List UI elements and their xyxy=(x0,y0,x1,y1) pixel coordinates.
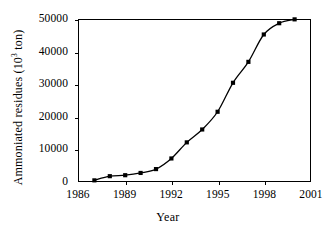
data-point-marker xyxy=(92,178,96,182)
x-axis-tick-label: 1989 xyxy=(113,188,136,201)
y-axis-tick-label: 0 xyxy=(62,176,68,188)
y-axis-tick-label: 20000 xyxy=(39,111,68,123)
data-point-marker xyxy=(108,174,112,178)
y-axis-tick-label: 50000 xyxy=(39,13,68,25)
data-point-marker xyxy=(123,173,127,177)
x-axis-tick-mark xyxy=(265,181,266,185)
y-axis-tick-mark xyxy=(75,150,79,151)
y-axis-tick-mark xyxy=(75,20,79,21)
data-point-marker xyxy=(169,156,173,160)
x-axis-tick-label: 1995 xyxy=(206,188,229,201)
data-series-line xyxy=(79,20,310,181)
x-axis-tick-label: 2001 xyxy=(299,188,322,201)
data-point-marker xyxy=(185,140,189,144)
x-axis-tick-mark xyxy=(126,181,127,185)
x-axis-title: Year xyxy=(0,210,336,225)
y-axis-unit-exponent: 3 xyxy=(10,53,19,57)
data-point-marker xyxy=(231,81,235,85)
x-axis-tick-labels: 198619891992199519982001 xyxy=(0,188,336,206)
y-axis-unit-suffix: ton) xyxy=(11,30,25,53)
y-axis-title: Ammoniated residues (103 ton) xyxy=(11,18,26,198)
x-axis-tick-mark xyxy=(172,181,173,185)
data-point-marker xyxy=(154,167,158,171)
plot-area xyxy=(78,19,311,182)
y-axis-tick-label: 10000 xyxy=(39,144,68,156)
series-line xyxy=(94,19,294,180)
data-point-marker xyxy=(139,171,143,175)
y-axis-tick-label: 40000 xyxy=(39,46,68,58)
x-axis-tick-label: 1998 xyxy=(253,188,276,201)
data-point-marker xyxy=(246,60,250,64)
data-point-marker xyxy=(293,17,297,21)
data-point-marker xyxy=(262,32,266,36)
data-point-marker xyxy=(216,110,220,114)
x-axis-tick-label: 1992 xyxy=(159,188,182,201)
data-point-marker xyxy=(277,21,281,25)
y-axis-title-text: Ammoniated residues xyxy=(11,77,25,186)
data-point-marker xyxy=(200,127,204,131)
y-axis-tick-mark xyxy=(75,53,79,54)
chart-figure: 01000020000300004000050000 1986198919921… xyxy=(0,0,336,236)
x-axis-tick-label: 1986 xyxy=(66,188,89,201)
x-axis-tick-mark xyxy=(219,181,220,185)
y-axis-tick-mark xyxy=(75,85,79,86)
y-axis-unit-prefix: (10 xyxy=(11,57,25,74)
y-axis-tick-label: 30000 xyxy=(39,78,68,90)
y-axis-tick-mark xyxy=(75,118,79,119)
